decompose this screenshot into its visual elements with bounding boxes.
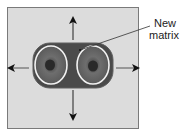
cell-right (77, 46, 109, 84)
nucleus-left (45, 60, 55, 71)
cell-left (35, 46, 67, 84)
leader-point (79, 49, 81, 51)
label-matrix: matrix (146, 29, 182, 41)
leader-line (80, 26, 150, 50)
label-new: New (150, 17, 180, 29)
nucleus-right (88, 61, 98, 72)
